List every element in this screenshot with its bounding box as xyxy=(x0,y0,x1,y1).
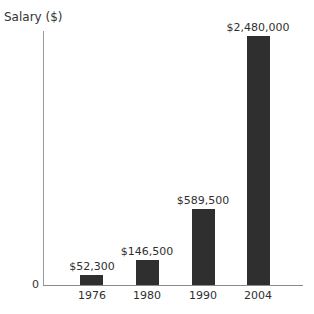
x-tick-2004: 2004 xyxy=(244,289,272,302)
y-axis-line xyxy=(43,31,44,286)
value-label-1990: $589,500 xyxy=(177,194,230,207)
value-label-1980: $146,500 xyxy=(121,245,174,258)
bar-2004 xyxy=(247,36,270,285)
x-axis-line xyxy=(43,285,303,286)
x-tick-1980: 1980 xyxy=(133,289,161,302)
y-tick-zero: 0 xyxy=(32,278,39,291)
value-label-1976: $52,300 xyxy=(69,260,115,273)
value-label-2004: $2,480,000 xyxy=(227,21,290,34)
x-tick-1976: 1976 xyxy=(78,289,106,302)
x-tick-1990: 1990 xyxy=(189,289,217,302)
bar-1980 xyxy=(136,260,159,285)
bar-1976 xyxy=(80,275,103,285)
bar-1990 xyxy=(192,209,215,285)
y-axis-label: Salary ($) xyxy=(4,10,63,24)
